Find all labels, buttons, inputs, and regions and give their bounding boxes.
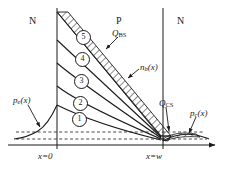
nb-leader-arrow [128,69,139,78]
pc-leader-arrow [189,117,196,133]
axis-tick-label-x0: x=0 [38,152,53,161]
semiconductor-carrier-profile-figure: N P N pe(x) pc(x) nb(x) QBS QCS 5 4 3 2 … [0,0,225,173]
axis-tick-label-xw: x=w [146,152,162,161]
pc-curve-label: pc(x) [190,109,207,119]
curve-number-2: 2 [73,96,88,111]
region-label-n-right: N [177,16,184,26]
nb-curve-label: nb(x) [140,63,158,73]
qbs-label: QBS [112,29,126,39]
pe-leader-arrow [28,105,40,127]
region-label-p: P [116,16,122,26]
curve-number-4: 4 [75,52,90,67]
curve-number-5: 5 [76,30,91,45]
qcs-label: QCS [159,99,173,109]
pe-curve-label: pe(x) [13,96,30,106]
curve-number-1: 1 [72,112,87,127]
region-label-n-left: N [29,16,36,26]
pe-curve [14,105,57,139]
qbs-leader-arrow [106,37,118,49]
qcs-leader-arrow [166,107,169,131]
curve-number-3: 3 [74,74,89,89]
